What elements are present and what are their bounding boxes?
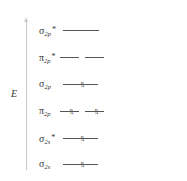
orbital-label: π2p*	[39, 51, 56, 67]
electron-pair-icon: ↑↓	[91, 104, 99, 118]
energy-level	[60, 57, 79, 58]
orbital-label: σ2s	[39, 158, 50, 173]
electron-pair-icon: ↑↓	[77, 131, 85, 145]
electron-pair-icon: ↑↓	[77, 77, 85, 91]
orbital-label: σ2p*	[39, 24, 56, 40]
orbital-label: σ2p	[39, 78, 51, 93]
energy-axis-label: E	[11, 88, 17, 99]
electron-pair-icon: ↑↓	[77, 157, 85, 171]
orbital-label: π2p	[39, 105, 51, 120]
energy-level	[85, 57, 104, 58]
energy-axis	[26, 20, 27, 170]
energy-level	[63, 30, 99, 31]
electron-pair-icon: ↑↓	[66, 104, 74, 118]
orbital-label: σ2s*	[39, 132, 55, 148]
